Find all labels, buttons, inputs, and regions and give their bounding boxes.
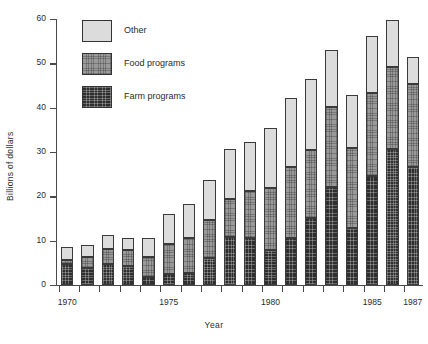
other-swatch — [82, 20, 112, 42]
bar-segment-other — [407, 57, 420, 84]
bar-segment-other — [203, 180, 216, 220]
x-tick — [140, 285, 141, 292]
x-tick — [343, 285, 344, 292]
bar-segment-farm-programs — [285, 238, 298, 285]
bar-segment-other — [244, 142, 257, 191]
bar-segment-food-programs — [305, 150, 318, 218]
bar-segment-other — [142, 238, 155, 258]
bar-segment-farm-programs — [366, 176, 379, 286]
bar-segment-other — [305, 79, 318, 149]
bar-segment-other — [122, 238, 135, 250]
y-tick: 10 — [50, 241, 57, 242]
bar-segment-farm-programs — [183, 273, 196, 285]
stacked-bar — [224, 149, 237, 285]
y-tick-label: 50 — [37, 57, 46, 67]
bar-segment-food-programs — [346, 148, 359, 228]
x-tick — [120, 285, 121, 292]
food-swatch — [82, 53, 112, 75]
y-tick: 50 — [50, 63, 57, 64]
stacked-bar — [285, 98, 298, 285]
y-tick-label: 40 — [37, 102, 46, 112]
stacked-bar — [163, 214, 176, 285]
x-tick — [262, 285, 263, 292]
bar-segment-other — [163, 214, 176, 245]
bar-segment-farm-programs — [386, 149, 399, 285]
bar-segment-other — [386, 20, 399, 67]
stacked-bar — [81, 245, 94, 285]
stacked-bar — [407, 57, 420, 285]
stacked-bar — [325, 50, 338, 285]
legend-label-other: Other — [124, 25, 147, 35]
bar-segment-food-programs — [244, 191, 257, 238]
y-tick-label: 10 — [37, 235, 46, 245]
bar-segment-food-programs — [122, 250, 135, 265]
y-tick-label: 60 — [37, 13, 46, 23]
bar-segment-farm-programs — [264, 250, 277, 285]
y-tick-label: 30 — [37, 146, 46, 156]
x-tick — [160, 285, 161, 292]
bar-segment-food-programs — [264, 188, 277, 250]
x-tick — [221, 285, 222, 292]
x-tick — [364, 285, 365, 292]
y-tick: 60 — [50, 19, 57, 20]
bar-segment-farm-programs — [142, 277, 155, 285]
x-tick — [404, 285, 405, 292]
x-tick-label: 1985 — [363, 297, 382, 307]
stacked-bar — [61, 247, 74, 285]
bar-segment-food-programs — [61, 260, 74, 264]
bar-segment-other — [224, 149, 237, 199]
bar-segment-farm-programs — [163, 274, 176, 285]
bar-segment-farm-programs — [122, 266, 135, 286]
stacked-bar — [346, 95, 359, 285]
y-tick-label: 0 — [41, 279, 46, 289]
x-tick-label: 1970 — [58, 297, 77, 307]
x-tick — [181, 285, 182, 292]
stacked-bar — [386, 20, 399, 285]
x-axis-line — [56, 285, 423, 286]
y-axis-title: Billions of dollars — [2, 96, 18, 236]
bar-segment-food-programs — [163, 244, 176, 274]
farm-swatch — [82, 86, 112, 108]
bar-segment-farm-programs — [203, 258, 216, 285]
x-tick — [282, 285, 283, 292]
stacked-bar — [203, 180, 216, 285]
bar-segment-farm-programs — [81, 268, 94, 285]
bar-segment-other — [325, 50, 338, 107]
bar-segment-food-programs — [142, 257, 155, 277]
x-tick — [242, 285, 243, 292]
x-tick-label: 1980 — [261, 297, 280, 307]
stacked-bar — [366, 36, 379, 285]
bar-segment-food-programs — [325, 107, 338, 188]
stacked-bar — [122, 238, 135, 285]
x-tick — [201, 285, 202, 292]
x-tick — [99, 285, 100, 292]
bar-segment-other — [61, 247, 74, 260]
bar-segment-other — [346, 95, 359, 148]
bar-segment-food-programs — [183, 238, 196, 273]
y-tick: 0 — [50, 285, 57, 286]
bar-segment-food-programs — [81, 257, 94, 268]
stacked-bar — [305, 79, 318, 285]
x-tick — [384, 285, 385, 292]
y-tick: 40 — [50, 108, 57, 109]
bar-segment-other — [81, 245, 94, 257]
legend-label-farm-programs: Farm programs — [124, 91, 186, 101]
bar-segment-farm-programs — [346, 228, 359, 285]
stacked-bar — [264, 128, 277, 285]
bar-segment-farm-programs — [102, 264, 115, 285]
y-tick-label: 20 — [37, 190, 46, 200]
bar-segment-food-programs — [224, 199, 237, 237]
bar-segment-other — [102, 235, 115, 249]
x-tick — [303, 285, 304, 292]
stacked-bar — [142, 238, 155, 285]
bar-segment-other — [366, 36, 379, 93]
x-tick — [323, 285, 324, 292]
x-tick — [79, 285, 80, 292]
bar-segment-farm-programs — [305, 218, 318, 285]
stacked-bar — [244, 142, 257, 285]
bar-segment-other — [183, 204, 196, 238]
bar-segment-food-programs — [285, 167, 298, 238]
bar-segment-farm-programs — [244, 238, 257, 285]
bar-segment-other — [264, 128, 277, 188]
bar-segment-other — [285, 98, 298, 167]
